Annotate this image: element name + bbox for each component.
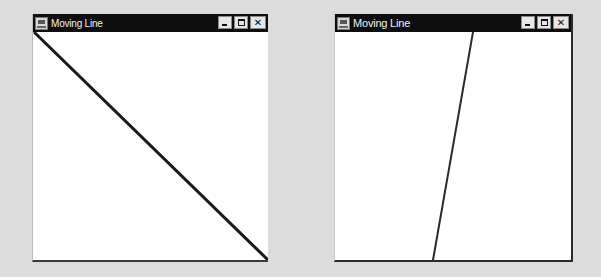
close-button[interactable]: ✕ <box>250 16 266 29</box>
title-bar[interactable]: Moving Line ✕ <box>335 14 571 32</box>
window-controls: ✕ <box>218 16 266 29</box>
minimize-button[interactable] <box>218 16 232 29</box>
drawing-canvas <box>33 32 268 260</box>
window-title: Moving Line <box>353 17 410 29</box>
line-canvas <box>335 32 571 260</box>
moving-line-window-1: Moving Line ✕ <box>32 14 268 262</box>
window-controls: ✕ <box>521 16 569 29</box>
drawing-canvas <box>335 32 571 260</box>
window-title: Moving Line <box>51 18 103 29</box>
java-cup-icon[interactable] <box>35 17 48 30</box>
line-canvas <box>33 32 268 260</box>
title-bar[interactable]: Moving Line ✕ <box>33 14 268 32</box>
close-icon: ✕ <box>557 17 565 28</box>
close-button[interactable]: ✕ <box>553 16 569 29</box>
minimize-button[interactable] <box>521 16 535 29</box>
moving-line <box>35 33 267 259</box>
java-cup-icon[interactable] <box>337 17 350 30</box>
moving-line-window-2: Moving Line ✕ <box>334 14 573 262</box>
maximize-button[interactable] <box>234 16 248 29</box>
close-icon: ✕ <box>254 17 262 28</box>
moving-line <box>433 32 473 260</box>
maximize-button[interactable] <box>537 16 551 29</box>
